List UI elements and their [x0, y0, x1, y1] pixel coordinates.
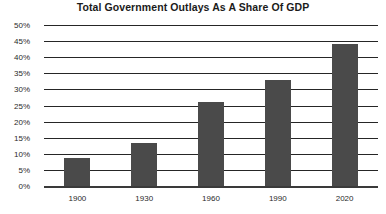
y-axis-tick-label: 25% — [0, 101, 30, 110]
plot-area: 0%5%10%15%20%25%30%35%40%45%50% 19001930… — [44, 25, 378, 186]
y-axis-tick-label: 50% — [0, 21, 30, 30]
y-axis-tick-label: 20% — [0, 117, 30, 126]
y-axis-tick-label: 10% — [0, 149, 30, 158]
chart-container: Total Government Outlays As A Share Of G… — [0, 0, 386, 214]
x-axis-tick-label: 1990 — [269, 194, 287, 203]
x-axis-tick-label: 1900 — [68, 194, 86, 203]
y-axis-tick-label: 5% — [0, 165, 30, 174]
y-axis-tick-label: 30% — [0, 85, 30, 94]
x-axis-tick-label: 2020 — [336, 194, 354, 203]
x-axis-ticks: 19001930196019902020 — [44, 25, 378, 186]
y-axis-tick-label: 40% — [0, 53, 30, 62]
x-axis-tick-label: 1930 — [135, 194, 153, 203]
y-axis-tick-label: 35% — [0, 69, 30, 78]
y-axis-tick-label: 45% — [0, 37, 30, 46]
x-axis-line — [44, 186, 378, 188]
y-axis-tick-label: 0% — [0, 182, 30, 191]
chart-title: Total Government Outlays As A Share Of G… — [0, 1, 386, 13]
x-axis-tick-label: 1960 — [202, 194, 220, 203]
y-axis-tick-label: 15% — [0, 133, 30, 142]
